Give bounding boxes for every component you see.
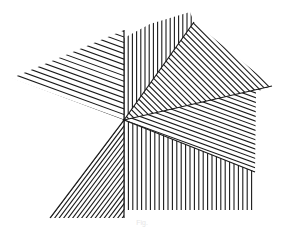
- center-point: [123, 119, 126, 122]
- hatch-regions: [0, 0, 284, 233]
- figure-caption: Fig.: [0, 219, 284, 226]
- bottom-right-vertical-hatch: [0, 0, 284, 233]
- boundary-line: [124, 86, 272, 120]
- boundary-line: [50, 120, 124, 218]
- boundary-line: [124, 22, 194, 120]
- hatched-sector-diagram: [0, 0, 284, 233]
